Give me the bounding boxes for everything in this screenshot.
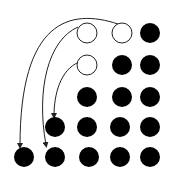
- filled-dot-icon: [77, 117, 97, 137]
- open-dot-icon: [77, 23, 97, 43]
- open-dot-icon: [112, 23, 132, 43]
- filled-dot-icon: [79, 147, 99, 167]
- filled-dot-icon: [140, 147, 160, 167]
- filled-dot-icon: [140, 117, 160, 137]
- filled-dot-icon: [14, 147, 34, 167]
- filled-dot-icon: [45, 117, 65, 137]
- filled-dot-icon: [140, 87, 160, 107]
- filled-dot-icon: [110, 147, 130, 167]
- filled-dot-icon: [110, 117, 130, 137]
- connector-arc-3: [54, 62, 79, 116]
- filled-dot-icon: [77, 87, 97, 107]
- filled-dot-icon: [140, 23, 160, 43]
- filled-dot-icon: [112, 87, 132, 107]
- dot-grid: [14, 23, 160, 167]
- filled-dot-icon: [140, 55, 160, 75]
- filled-dot-icon: [112, 55, 132, 75]
- open-dot-icon: [77, 55, 97, 75]
- dot-pattern-diagram: [0, 0, 169, 177]
- connector-arc-1: [20, 18, 118, 146]
- filled-dot-icon: [45, 147, 65, 167]
- connector-arcs: [20, 18, 118, 146]
